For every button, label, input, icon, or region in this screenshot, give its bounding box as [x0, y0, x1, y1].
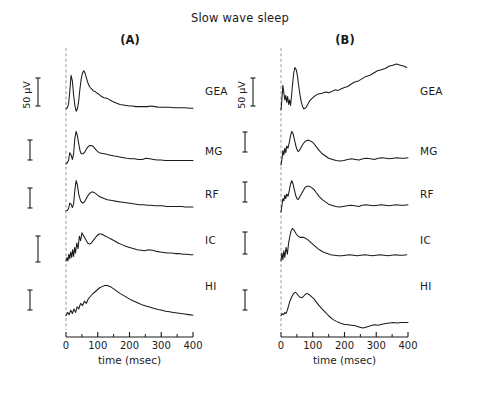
- x-tick-label-300: 300: [367, 340, 386, 351]
- trace-A-GEA: [66, 71, 193, 111]
- trace-B-RF: [281, 181, 408, 212]
- trace-B-IC: [281, 228, 407, 260]
- x-axis-title: time (msec): [98, 354, 161, 366]
- trace-B-MG: [281, 131, 408, 165]
- scale-bar-label: 50 µV: [21, 81, 32, 109]
- trace-A-IC: [66, 233, 193, 261]
- channel-label-RF: RF: [205, 188, 219, 200]
- x-tick-label-300: 300: [152, 340, 171, 351]
- channel-label-HI: HI: [420, 280, 432, 292]
- x-tick-label-400: 400: [183, 340, 202, 351]
- x-tick-label-200: 200: [120, 340, 139, 351]
- channel-label-GEA: GEA: [205, 85, 228, 97]
- trace-A-MG: [66, 131, 193, 163]
- x-tick-label-400: 400: [398, 340, 417, 351]
- trace-B-GEA: [281, 64, 407, 110]
- figure-root: Slow wave sleep (A)GEAMGRFICHI50 µV01002…: [0, 0, 480, 397]
- channel-label-IC: IC: [205, 234, 216, 246]
- channel-label-RF: RF: [420, 188, 434, 200]
- x-tick-label-0: 0: [278, 340, 284, 351]
- panel-label-B: (B): [335, 33, 354, 47]
- channel-label-MG: MG: [205, 145, 223, 157]
- x-tick-label-100: 100: [88, 340, 107, 351]
- channel-label-IC: IC: [420, 234, 431, 246]
- x-tick-label-100: 100: [303, 340, 322, 351]
- x-tick-label-0: 0: [63, 340, 69, 351]
- channel-label-MG: MG: [420, 145, 438, 157]
- trace-A-HI: [66, 286, 193, 316]
- trace-B-HI: [281, 292, 408, 328]
- channel-label-GEA: GEA: [420, 85, 443, 97]
- figure-title: Slow wave sleep: [191, 11, 289, 25]
- slow-wave-sleep-figure: Slow wave sleep (A)GEAMGRFICHI50 µV01002…: [0, 0, 480, 397]
- channel-label-HI: HI: [205, 280, 217, 292]
- panel-b: (B)GEAMGRFICHI50 µV0100200300400time (ms…: [236, 33, 443, 366]
- x-tick-label-200: 200: [335, 340, 354, 351]
- panel-a: (A)GEAMGRFICHI50 µV0100200300400time (ms…: [21, 33, 228, 366]
- x-axis-title: time (msec): [313, 354, 376, 366]
- scale-bar-label: 50 µV: [236, 81, 247, 109]
- panel-label-A: (A): [120, 33, 139, 47]
- trace-A-RF: [66, 181, 193, 211]
